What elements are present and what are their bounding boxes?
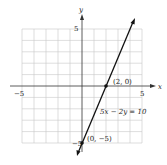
y-tick-pos: 5 xyxy=(74,25,78,33)
x-axis-arrow-icon xyxy=(150,84,156,88)
coordinate-plane: x y −5 5 5 −5 (2, 0) (0, −5) 5x − 2y = 1… xyxy=(0,0,167,165)
y-axis-arrow-icon xyxy=(80,14,84,20)
x-axis-label: x xyxy=(158,83,162,91)
equation-label: 5x − 2y = 10 xyxy=(100,108,147,116)
point-0-neg5 xyxy=(80,141,84,145)
point-2-0 xyxy=(104,84,108,88)
line-arrow-bottom-icon xyxy=(77,150,81,156)
point-label-0-neg5: (0, −5) xyxy=(87,135,112,143)
line-arrow-top-icon xyxy=(131,18,136,25)
x-tick-neg: −5 xyxy=(14,90,24,98)
point-label-2-0: (2, 0) xyxy=(113,78,132,86)
y-axis-label: y xyxy=(78,6,84,14)
x-tick-pos: 5 xyxy=(140,90,144,98)
